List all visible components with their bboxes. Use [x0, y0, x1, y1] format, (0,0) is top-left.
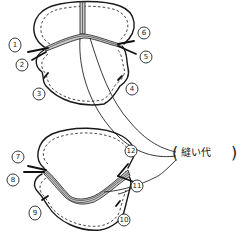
top-curved-seam-allowance [44, 34, 120, 51]
pin-5 [118, 46, 136, 54]
marker-10: 10 [118, 214, 130, 226]
marker-3: 3 [33, 88, 45, 100]
marker-2: 2 [16, 59, 28, 71]
marker-7: 7 [12, 151, 24, 163]
leader-top-1 [80, 38, 176, 157]
svg-text:9: 9 [33, 209, 37, 217]
bottom-upper-lobe-outline [38, 128, 135, 168]
pin-10 [116, 201, 120, 206]
seam-allowance-label: ( 縫い代 ) [172, 143, 237, 162]
svg-text:6: 6 [142, 29, 147, 37]
marker-4: 4 [126, 83, 138, 95]
svg-text:10: 10 [120, 216, 129, 224]
svg-text:): ) [231, 143, 237, 162]
svg-text:12: 12 [127, 147, 136, 155]
number-markers: 1 2 3 4 5 6 7 8 [7, 27, 152, 226]
marker-6: 6 [138, 27, 150, 39]
marker-9: 9 [29, 206, 41, 220]
svg-text:4: 4 [130, 85, 135, 93]
marker-1: 1 [9, 38, 21, 52]
marker-11: 11 [131, 180, 143, 192]
marker-8: 8 [7, 174, 19, 186]
svg-text:(: ( [172, 143, 178, 162]
marker-5: 5 [140, 51, 152, 63]
svg-text:7: 7 [16, 153, 20, 161]
svg-text:2: 2 [20, 61, 24, 69]
svg-text:縫い代: 縫い代 [181, 146, 211, 158]
bottom-upper-lobe-stitch [43, 133, 128, 164]
top-fabric-piece [28, 2, 136, 106]
marker-12: 12 [125, 145, 137, 157]
svg-text:11: 11 [133, 182, 142, 190]
top-lower-lobe-outline [36, 46, 128, 105]
svg-text:3: 3 [37, 90, 41, 98]
svg-text:1: 1 [13, 41, 17, 49]
svg-text:8: 8 [11, 176, 15, 184]
svg-text:5: 5 [144, 53, 148, 61]
seam-allowance-diagram: 1 2 3 4 5 6 7 8 [0, 0, 243, 240]
